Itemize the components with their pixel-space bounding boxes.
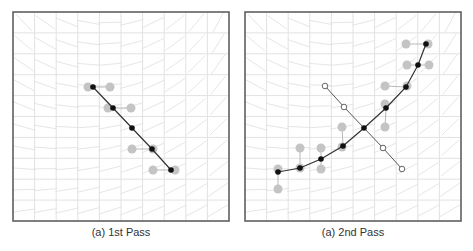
orientation-stroke (120, 20, 143, 26)
orientation-stroke (165, 121, 185, 133)
candidate-dot (106, 83, 115, 92)
orientation-stroke (120, 82, 143, 89)
candidate-dot (127, 104, 136, 113)
orientation-stroke (330, 22, 354, 23)
orientation-stroke (34, 208, 57, 212)
orientation-stroke (266, 208, 289, 212)
orientation-stroke (165, 79, 185, 92)
orientation-stroke (352, 82, 375, 89)
orientation-stroke (210, 119, 227, 136)
orientation-stroke (397, 142, 418, 154)
orientation-stroke (120, 40, 143, 46)
orientation-stroke (35, 37, 56, 49)
orientation-stroke (188, 77, 205, 93)
orientation-stroke (210, 97, 226, 115)
curve-point (297, 165, 303, 171)
orientation-stroke (56, 61, 79, 67)
orientation-stroke (165, 100, 185, 113)
orientation-stroke (143, 101, 165, 111)
orientation-stroke (208, 183, 228, 196)
orientation-stroke (12, 209, 36, 212)
orientation-stroke (186, 205, 207, 216)
orientation-stroke (99, 207, 122, 214)
orientation-stroke (99, 166, 122, 172)
orientation-stroke (442, 97, 458, 115)
orientation-stroke (77, 207, 100, 213)
orientation-stroke (77, 126, 101, 128)
orientation-stroke (288, 40, 311, 48)
orientation-stroke (330, 43, 354, 44)
orientation-stroke (288, 18, 310, 27)
candidate-dot (149, 166, 158, 175)
orientation-stroke (77, 146, 101, 149)
hollow-point (341, 104, 347, 110)
orientation-stroke (16, 14, 32, 31)
orientation-stroke (14, 58, 34, 71)
orientation-stroke (330, 63, 354, 65)
orientation-stroke (352, 103, 375, 110)
candidate-dot (296, 144, 305, 153)
curve-point (149, 146, 155, 152)
orientation-stroke (121, 206, 143, 214)
orientation-stroke (419, 120, 438, 135)
orientation-stroke (445, 12, 456, 33)
orientation-stroke (398, 15, 417, 30)
orientation-stroke (374, 185, 396, 194)
orientation-stroke (209, 161, 228, 176)
orientation-stroke (441, 161, 460, 176)
curve-point (423, 41, 429, 47)
orientation-stroke (288, 61, 311, 67)
hollow-point (380, 145, 386, 151)
orientation-stroke (55, 188, 78, 192)
orientation-stroke (187, 162, 207, 175)
orientation-stroke (34, 125, 57, 129)
orientation-stroke (209, 140, 227, 156)
orientation-stroke (99, 186, 122, 193)
orientation-stroke (55, 208, 78, 213)
orientation-stroke (187, 141, 206, 155)
candidate-dot (317, 165, 326, 174)
orientation-stroke (419, 141, 438, 155)
curve-point (275, 169, 281, 175)
candidate-dot (338, 123, 347, 132)
orientation-stroke (98, 43, 122, 44)
orientation-stroke (13, 79, 34, 90)
orientation-stroke (443, 76, 458, 95)
orientation-stroke (353, 165, 375, 173)
orientation-stroke (98, 63, 122, 65)
orientation-stroke (244, 189, 268, 190)
hollow-point (322, 83, 328, 89)
curve-point (403, 84, 409, 90)
orientation-stroke (12, 124, 35, 131)
candidate-dot (425, 61, 434, 70)
orientation-stroke (34, 103, 57, 109)
curve-point (168, 167, 174, 173)
orientation-stroke (353, 144, 376, 151)
orientation-stroke (120, 61, 143, 67)
orientation-stroke (12, 146, 35, 150)
orientation-stroke (12, 189, 36, 190)
orientation-stroke (330, 84, 354, 87)
orientation-stroke (55, 168, 79, 170)
orientation-stroke (331, 207, 354, 214)
orientation-stroke (268, 16, 288, 29)
orientation-stroke (375, 164, 397, 174)
orientation-stroke (374, 206, 396, 215)
curve-point (340, 143, 346, 149)
orientation-stroke (421, 13, 436, 31)
candidate-dot (402, 40, 411, 49)
orientation-stroke (189, 35, 205, 53)
orientation-stroke (309, 187, 332, 192)
figure: (a) 1st Pass (a) 2nd Pass (0, 0, 473, 251)
orientation-stroke (353, 206, 375, 214)
orientation-stroke (267, 59, 289, 69)
caption-second-pass: (a) 2nd Pass (293, 226, 413, 238)
orientation-stroke (213, 12, 224, 33)
orientation-stroke (440, 183, 460, 196)
orientation-stroke (208, 204, 228, 216)
orientation-stroke (420, 77, 437, 93)
orientation-stroke (143, 80, 165, 90)
curve-point (129, 125, 135, 131)
candidate-dot (317, 144, 326, 153)
orientation-stroke (164, 205, 185, 215)
